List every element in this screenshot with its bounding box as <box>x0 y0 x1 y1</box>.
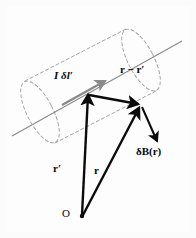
cylinder-end-right <box>114 24 168 96</box>
label-source-position: r′ <box>53 163 61 174</box>
label-field-position: r <box>94 165 99 176</box>
label-field-increment: δB(r) <box>136 146 161 157</box>
r-minus-r-prime-vector-icon <box>89 95 138 104</box>
r-prime-vector-icon <box>82 95 88 215</box>
label-separation-vector: r − r′ <box>120 64 144 75</box>
origin-point <box>80 214 84 218</box>
label-current-element: I δl′ <box>54 70 73 81</box>
label-origin: O <box>62 208 70 219</box>
current-direction-arrow-icon <box>62 81 105 105</box>
dashed-cylinder-icon <box>13 24 168 148</box>
cylinder-side-top <box>25 29 126 81</box>
delta-b-vector-icon <box>142 107 157 141</box>
figure-container: I δl′ r − r′ δB(r) r′ r O <box>0 0 196 238</box>
diagram-svg <box>0 0 196 238</box>
cylinder-end-left <box>13 76 67 148</box>
